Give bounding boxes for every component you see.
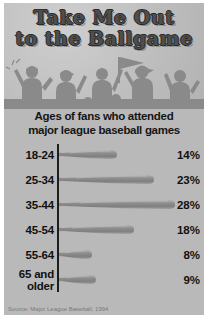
category-label-line-1: 55-64 xyxy=(26,249,54,261)
bar-chart: 18-2414%25-3423%35-4428%45-5418%55-648%6… xyxy=(4,142,204,294)
fan-silhouettes-icon xyxy=(4,47,204,109)
infographic-poster: Take Me Out to the Ballgame Ages of fans… xyxy=(4,3,204,315)
category-label-line-1: 18-24 xyxy=(26,149,54,161)
title-line-1: Take Me Out xyxy=(34,6,175,28)
subtitle-line-1: Ages of fans who attended xyxy=(35,110,174,122)
value-label: 9% xyxy=(183,267,200,292)
baseball-bat-bar xyxy=(59,174,154,185)
page-title: Take Me Out to the Ballgame xyxy=(4,7,204,49)
value-label: 14% xyxy=(177,142,200,167)
category-label-line-1: 35-44 xyxy=(26,199,54,211)
chart-row: 45-5418% xyxy=(4,217,204,242)
value-label: 23% xyxy=(177,167,200,192)
source-note: Source: Major League Baseball, 1994 xyxy=(8,306,204,312)
chart-row: 65 andolder9% xyxy=(4,267,204,292)
category-label: 55-64 xyxy=(4,242,54,267)
category-label-line-1: 65 and xyxy=(19,268,54,280)
baseball-bat-bar xyxy=(59,224,134,235)
chart-subtitle: Ages of fans who attended major league b… xyxy=(4,109,204,137)
chart-row: 25-3423% xyxy=(4,167,204,192)
category-label-line-1: 25-34 xyxy=(26,174,54,186)
category-label: 18-24 xyxy=(4,142,54,167)
value-label: 18% xyxy=(177,217,200,242)
poster-header: Take Me Out to the Ballgame xyxy=(4,3,204,109)
baseball-bat-bar xyxy=(59,274,96,285)
chart-row: 55-648% xyxy=(4,242,204,267)
subtitle-line-2: major league baseball games xyxy=(4,123,204,137)
category-label: 25-34 xyxy=(4,167,54,192)
chart-row: 35-4428% xyxy=(4,192,204,217)
category-label-line-2: older xyxy=(27,280,54,292)
baseball-bat-bar xyxy=(59,199,175,210)
value-label: 8% xyxy=(183,242,200,267)
category-label: 65 andolder xyxy=(4,267,54,292)
category-label: 35-44 xyxy=(4,192,54,217)
chart-row: 18-2414% xyxy=(4,142,204,167)
category-label-line-1: 45-54 xyxy=(26,224,54,236)
category-label: 45-54 xyxy=(4,217,54,242)
value-label: 28% xyxy=(177,192,200,217)
title-line-2: to the Ballgame xyxy=(4,28,204,49)
baseball-bat-bar xyxy=(59,149,117,160)
baseball-bat-bar xyxy=(59,249,92,260)
